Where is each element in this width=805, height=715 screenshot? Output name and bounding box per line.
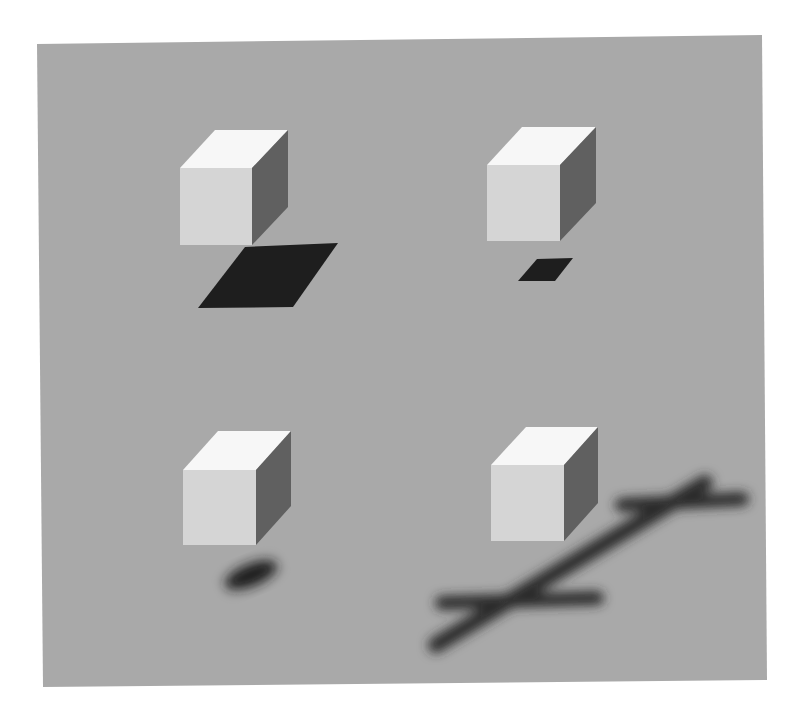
cube-front-face <box>183 470 256 545</box>
cube-front-face <box>491 465 564 541</box>
illusion-figure <box>0 0 805 715</box>
cube-front-face <box>180 168 252 245</box>
figure-canvas <box>0 0 805 715</box>
cube-front-face <box>487 165 560 241</box>
ground-plane <box>37 35 767 687</box>
